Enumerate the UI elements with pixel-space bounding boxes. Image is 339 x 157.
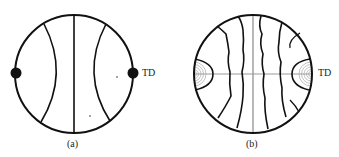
panel-a-speck (89, 115, 91, 117)
panel-b-contour-4 (278, 22, 286, 117)
panel-b-caption: (b) (246, 139, 258, 149)
panel-b-td-label: TD (318, 68, 331, 78)
panel-b-contour-2 (237, 16, 244, 128)
panel-a-caption: (a) (67, 139, 78, 149)
panel-b-contour-1 (217, 26, 231, 118)
panel-a-right-dot (128, 68, 139, 79)
panel-a-speck (116, 76, 118, 78)
panel-a-td-label: TD (142, 68, 155, 78)
figure-canvas (0, 0, 339, 157)
panel-a-diagram (11, 15, 139, 133)
panel-a-left-dot (11, 68, 22, 79)
panel-b-diagram (193, 15, 312, 133)
panel-b-contour-3 (260, 16, 268, 129)
panel-a-right-arc (94, 24, 110, 121)
panel-b-contour-5-bottom (290, 100, 299, 112)
panel-a-left-arc (41, 24, 56, 122)
